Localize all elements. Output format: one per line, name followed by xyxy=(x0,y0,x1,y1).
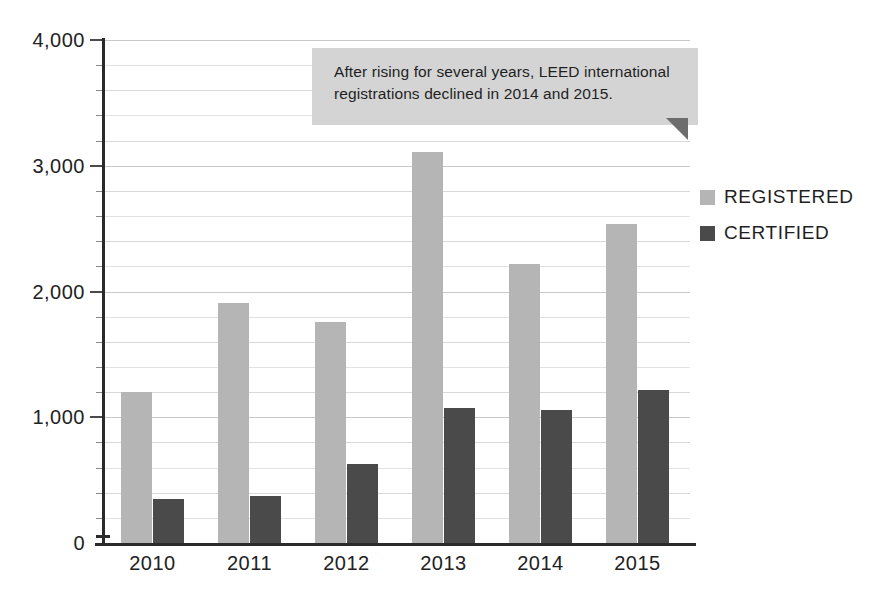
bar-registered-2011 xyxy=(218,303,249,543)
gridline xyxy=(103,241,690,242)
gridline xyxy=(103,493,690,494)
callout-line-2: registrations declined in 2014 and 2015. xyxy=(334,85,613,102)
bar-registered-2010 xyxy=(121,392,152,543)
y-axis-line xyxy=(102,38,105,545)
gridline xyxy=(103,40,690,41)
legend-swatch-icon-certified xyxy=(700,226,715,241)
callout-box: After rising for several years, LEED int… xyxy=(312,48,698,125)
bar-certified-2010 xyxy=(153,499,184,543)
legend-item-registered: REGISTERED xyxy=(700,186,854,208)
legend-label-certified: CERTIFIED xyxy=(724,222,829,244)
callout-line-1: After rising for several years, LEED int… xyxy=(334,63,670,80)
gridline xyxy=(103,367,690,368)
gridline xyxy=(103,468,690,469)
x-axis-label-2013: 2013 xyxy=(420,552,467,575)
y-axis-label: 0 xyxy=(73,532,85,555)
legend-item-certified: CERTIFIED xyxy=(700,222,854,244)
gridline xyxy=(103,266,690,267)
gridline xyxy=(103,417,690,418)
gridline xyxy=(103,191,690,192)
bar-certified-2013 xyxy=(444,408,475,543)
bar-registered-2012 xyxy=(315,322,346,543)
gridline xyxy=(103,166,690,167)
callout-fold-triangle xyxy=(666,118,688,140)
x-axis-label-2012: 2012 xyxy=(323,552,370,575)
gridline xyxy=(103,216,690,217)
y-axis-label: 4,000 xyxy=(32,29,85,52)
bar-registered-2013 xyxy=(412,152,443,543)
legend-label-registered: REGISTERED xyxy=(724,186,854,208)
x-axis-line xyxy=(95,543,696,546)
bar-certified-2015 xyxy=(638,390,669,543)
gridline xyxy=(103,392,690,393)
gridline xyxy=(103,292,690,293)
x-axis-label-2015: 2015 xyxy=(614,552,661,575)
chart-container: 01,0002,0003,0004,000 201020112012201320… xyxy=(0,0,871,605)
x-axis-label-2014: 2014 xyxy=(517,552,564,575)
y-axis-label: 1,000 xyxy=(32,406,85,429)
x-axis-label-2011: 2011 xyxy=(227,552,272,575)
callout-text: After rising for several years, LEED int… xyxy=(334,61,682,105)
y-axis-label: 2,000 xyxy=(32,280,85,303)
bar-registered-2014 xyxy=(509,264,540,543)
bar-certified-2012 xyxy=(347,464,378,543)
legend-swatch-icon-registered xyxy=(700,190,715,205)
x-axis-label-2010: 2010 xyxy=(129,552,176,575)
zero-tick-mark xyxy=(96,535,110,538)
gridline xyxy=(103,442,690,443)
bar-certified-2014 xyxy=(541,410,572,543)
gridline xyxy=(103,342,690,343)
gridline xyxy=(103,518,690,519)
y-axis-label: 3,000 xyxy=(32,154,85,177)
gridline xyxy=(103,141,690,142)
bar-registered-2015 xyxy=(606,224,637,543)
legend: REGISTERED CERTIFIED xyxy=(700,186,854,258)
bar-certified-2011 xyxy=(250,496,281,543)
gridline xyxy=(103,317,690,318)
